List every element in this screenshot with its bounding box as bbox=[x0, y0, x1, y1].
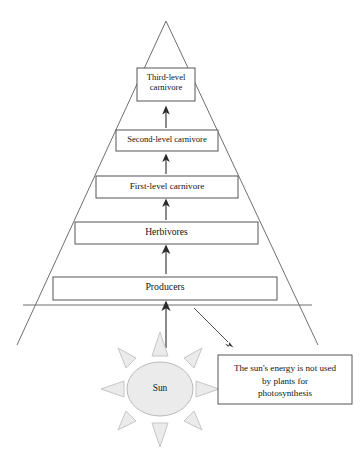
level-box-third-level-carnivore[interactable] bbox=[137, 68, 195, 101]
level-box-herbivores[interactable] bbox=[75, 222, 258, 244]
arrow-first-to-second-level-carnivore bbox=[162, 154, 170, 175]
sun-ray-sw bbox=[118, 411, 136, 430]
level-box-producers[interactable] bbox=[53, 277, 277, 300]
sun-ray-se bbox=[184, 411, 202, 430]
energy-pyramid-diagram: Third-level carnivore Second-level carni… bbox=[0, 0, 364, 456]
sun-ray-s bbox=[152, 423, 168, 447]
sun-ray-nw bbox=[118, 348, 136, 368]
arrow-herbivores-to-first-level-carnivore bbox=[162, 199, 170, 221]
energy-loss-note-box[interactable] bbox=[218, 355, 352, 404]
level-box-first-level-carnivore[interactable] bbox=[96, 176, 238, 198]
arrow-producers-to-herbivores bbox=[162, 245, 171, 275]
sun-ray-e bbox=[196, 381, 219, 397]
arrow-second-to-third-level-carnivore bbox=[162, 106, 170, 129]
sun-icon bbox=[127, 362, 193, 416]
arrow-energy-loss-callout bbox=[194, 308, 234, 348]
sun-ray-ne bbox=[184, 348, 202, 368]
sun-ray-w bbox=[101, 381, 124, 397]
diagram-canvas bbox=[0, 0, 364, 456]
level-box-second-level-carnivore[interactable] bbox=[116, 130, 218, 151]
